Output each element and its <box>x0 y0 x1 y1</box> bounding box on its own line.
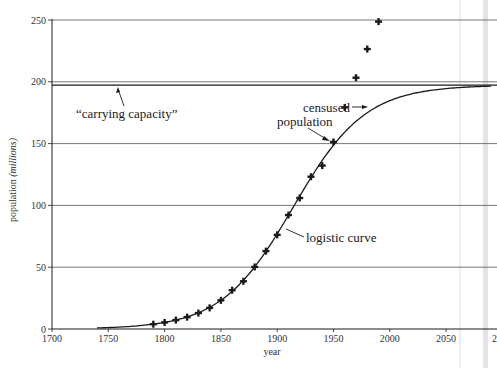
chart-canvas: 170017501800185019001950200020502 050100… <box>0 0 497 368</box>
cross-v <box>152 321 154 328</box>
x-tick-label-1950: 1950 <box>324 333 344 344</box>
cross-v <box>366 46 368 53</box>
data-point-1830 <box>195 310 202 317</box>
censused-arrowhead-2 <box>322 136 330 141</box>
x-tick-label-1900: 1900 <box>267 333 287 344</box>
logistic-curve-pointer <box>286 229 304 237</box>
y-tick-label-100: 100 <box>31 200 46 211</box>
page-edge-shadow <box>483 0 488 368</box>
cross-v <box>253 263 255 270</box>
data-point-1990 <box>375 18 382 25</box>
cross-v <box>208 304 210 311</box>
cross-v <box>220 297 222 304</box>
cross-v <box>163 319 165 326</box>
carrying-capacity-arrowhead <box>116 87 120 93</box>
data-point-1950 <box>330 138 337 145</box>
cross-v <box>332 138 334 145</box>
x-axis-title: year <box>263 346 281 357</box>
cross-v <box>231 287 233 294</box>
censused-arrow-2 <box>308 128 326 139</box>
x-tick-label-1750: 1750 <box>98 333 118 344</box>
y-tick-label-150: 150 <box>31 138 46 149</box>
censused-label-line2: population <box>277 114 333 129</box>
x-tick-label-1850: 1850 <box>211 333 231 344</box>
cross-v <box>321 162 323 169</box>
y-axis-title-plain: population <box>7 177 18 222</box>
x-tick-label-clipped: 2 <box>492 333 497 344</box>
y-axis-ticks: 050100150200250 <box>31 15 52 335</box>
data-point-1800 <box>161 319 168 326</box>
x-tick-label-1700: 1700 <box>42 333 62 344</box>
cross-v <box>186 314 188 321</box>
data-point-1910 <box>285 212 292 219</box>
cross-v <box>287 212 289 219</box>
cross-v <box>197 310 199 317</box>
censused-label-line1: censused <box>303 100 350 115</box>
cross-v <box>355 74 357 81</box>
census-data-points <box>150 18 382 328</box>
gridlines <box>52 20 497 267</box>
data-point-1820 <box>184 314 191 321</box>
data-point-1980 <box>364 46 371 53</box>
cross-v <box>377 18 379 25</box>
y-tick-label-50: 50 <box>36 262 46 273</box>
cross-v <box>242 278 244 285</box>
data-point-1810 <box>172 317 179 324</box>
logistic-curve-label: logistic curve <box>306 230 377 245</box>
x-axis-ticks: 170017501800185019001950200020502 <box>42 329 497 344</box>
cross-v <box>310 173 312 180</box>
y-tick-label-0: 0 <box>41 324 46 335</box>
data-point-1970 <box>353 74 360 81</box>
data-point-1790 <box>150 321 157 328</box>
censused-arrowhead-1 <box>362 105 368 109</box>
axes <box>52 19 497 329</box>
cross-v <box>265 248 267 255</box>
y-tick-label-250: 250 <box>31 15 46 26</box>
x-tick-label-1800: 1800 <box>155 333 175 344</box>
cross-v <box>299 194 301 201</box>
y-tick-label-200: 200 <box>31 76 46 87</box>
cross-v <box>175 317 177 324</box>
x-tick-label-2000: 2000 <box>380 333 400 344</box>
chart: 170017501800185019001950200020502 050100… <box>0 0 497 368</box>
cross-v <box>276 231 278 238</box>
y-axis-title: population (millions) <box>7 137 19 222</box>
y-axis-title-unit: (millions) <box>7 137 19 177</box>
carrying-capacity-label: “carrying capacity” <box>76 106 178 121</box>
x-tick-label-2050: 2050 <box>436 333 456 344</box>
